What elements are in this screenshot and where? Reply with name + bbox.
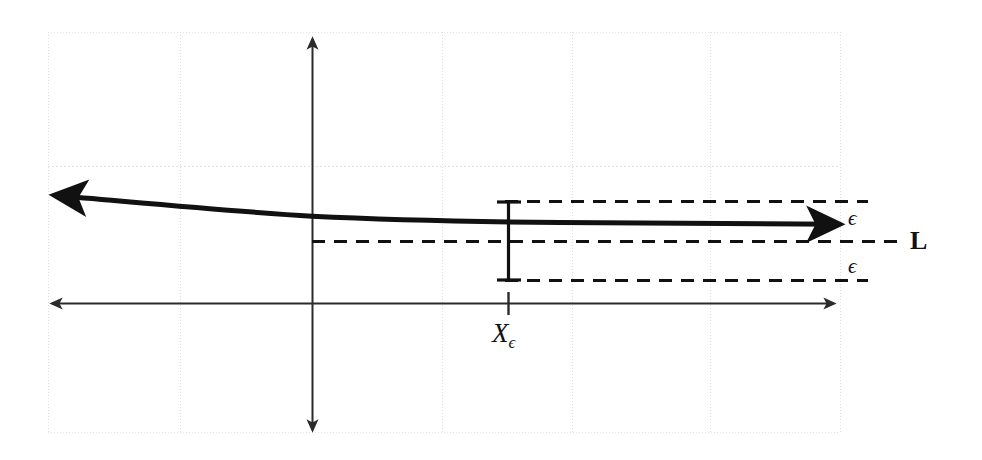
function-curve xyxy=(56,196,838,225)
limit-label-L: L xyxy=(910,226,927,256)
x-epsilon-subscript: ϵ xyxy=(509,333,516,352)
epsilon-band-layer xyxy=(312,202,900,281)
figure-canvas xyxy=(0,0,982,460)
grid-horizontal-lines xyxy=(48,33,840,433)
epsilon-lower-label: ϵ xyxy=(848,254,856,279)
function-curve-layer xyxy=(56,196,838,225)
x-epsilon-base: X xyxy=(492,318,509,348)
grid-vertical-lines xyxy=(49,32,841,432)
figure-container: ϵ L ϵ Xϵ xyxy=(0,0,982,460)
x-epsilon-label: Xϵ xyxy=(492,318,515,353)
grid-layer xyxy=(48,32,841,433)
epsilon-upper-label: ϵ xyxy=(848,206,856,231)
